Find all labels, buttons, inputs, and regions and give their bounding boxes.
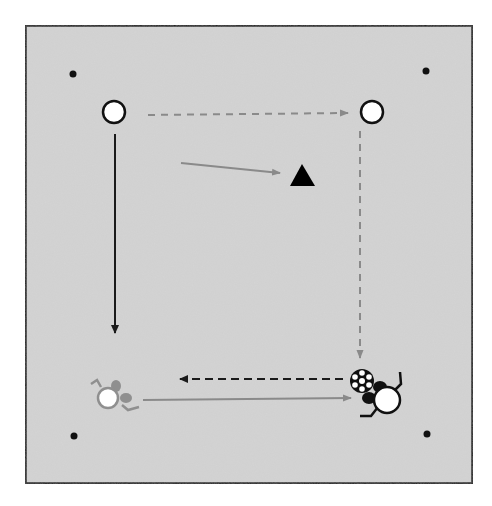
training-field <box>26 26 473 484</box>
cone-marker-icon <box>70 71 77 78</box>
soccer-drill-diagram <box>0 0 492 506</box>
cone-marker-icon <box>423 68 430 75</box>
cone-marker-icon <box>424 431 431 438</box>
player-icon <box>361 101 383 123</box>
cone-marker-icon <box>71 433 78 440</box>
player-icon <box>103 101 125 123</box>
soccer-ball-icon <box>350 369 374 393</box>
